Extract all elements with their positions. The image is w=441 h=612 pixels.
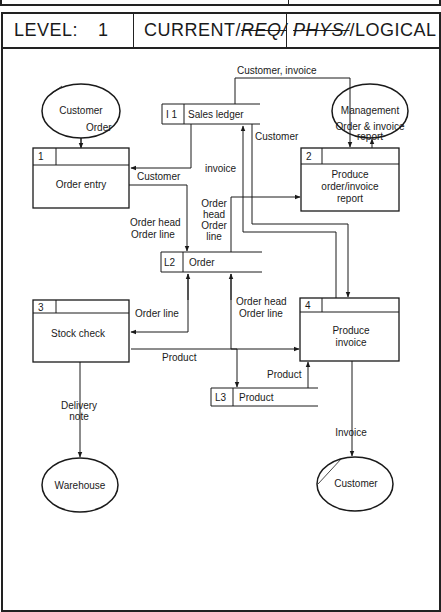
flow-label-product-3: Product <box>162 352 197 363</box>
label-management: Management <box>341 105 400 116</box>
label-process-2-line3: report <box>337 193 363 204</box>
flow-label-order-line-3: Order line <box>135 308 179 319</box>
flow-label-order-head-4: Order head <box>236 296 287 307</box>
label-store-3-id: L3 <box>215 392 227 403</box>
flow-label-delivery-2: note <box>69 411 89 422</box>
label-store-1-id: I 1 <box>166 109 178 120</box>
label-warehouse: Warehouse <box>55 480 106 491</box>
label-process-4-id: 4 <box>305 300 311 311</box>
flow-label-order: Order <box>86 122 112 133</box>
flow-label-customer-invoice: Customer, invoice <box>237 65 317 76</box>
flow-label-product-4: Product <box>267 369 302 380</box>
label-store-1-name: Sales ledger <box>188 109 244 120</box>
label-store-2-id: L2 <box>164 257 176 268</box>
flow-label-invoice-out: Invoice <box>335 427 367 438</box>
diagram-labels: Customer Management Warehouse Customer 1… <box>38 65 405 491</box>
flow-label-order-2c: Order <box>201 220 227 231</box>
label-customer-top: Customer <box>59 105 103 116</box>
label-process-1-name: Order entry <box>56 179 107 190</box>
label-process-3-id: 3 <box>38 302 44 313</box>
flow-label-order-2d: line <box>206 231 222 242</box>
label-process-3-name: Stock check <box>51 328 106 339</box>
flow-label-invoice: invoice <box>205 163 237 174</box>
label-process-2-line2: order/invoice <box>321 181 379 192</box>
label-process-1-id: 1 <box>38 151 44 162</box>
flow-label-order-line-4: Order line <box>239 308 283 319</box>
flow-label-customer-2: Customer <box>255 131 299 142</box>
flow-label-order-2b: head <box>203 209 225 220</box>
flow-label-delivery-1: Delivery <box>61 400 97 411</box>
label-store-2-name: Order <box>189 257 215 268</box>
label-process-2-id: 2 <box>306 151 312 162</box>
label-process-2-line1: Produce <box>331 169 369 180</box>
label-process-4-line1: Produce <box>332 325 370 336</box>
flow-label-customer-1: Customer <box>137 171 181 182</box>
flow-label-order-2a: Order <box>201 198 227 209</box>
label-customer-bottom: Customer <box>334 478 378 489</box>
label-store-3-name: Product <box>239 392 274 403</box>
label-process-4-line2: invoice <box>335 337 367 348</box>
flow-label-order-line-1: Order line <box>131 229 175 240</box>
flow-label-order-head-1: Order head <box>130 217 181 228</box>
flow-label-report-2: report <box>357 131 383 142</box>
process-1-order-entry <box>33 148 129 208</box>
